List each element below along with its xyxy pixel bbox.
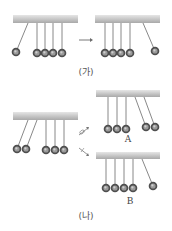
pendulum-ball	[142, 123, 151, 132]
pendulum-ball	[117, 49, 126, 58]
newtons-cradle-diagram: (가) (나) A B	[0, 0, 172, 231]
pendulum-ball	[12, 48, 21, 57]
pendulum-ball	[109, 49, 118, 58]
support-bar	[96, 90, 160, 97]
pendulum-ball	[126, 49, 135, 58]
pendulum-ball	[149, 182, 158, 191]
pendulum-ball	[49, 49, 58, 58]
support-bar	[13, 112, 78, 120]
pendulum-string	[26, 120, 37, 149]
pendulum-ball	[129, 184, 138, 193]
cradle-na-option-b	[96, 152, 160, 192]
pendulum-ball	[120, 184, 129, 193]
support-bar	[96, 152, 160, 159]
pendulum-ball	[111, 184, 120, 193]
pendulum-ball	[33, 49, 42, 58]
pendulum-string	[16, 23, 28, 52]
pendulum-ball	[151, 47, 160, 56]
pendulum-ball	[151, 123, 160, 132]
pendulum-ball	[60, 146, 69, 155]
pendulum-ball	[104, 125, 113, 134]
pendulum-ball	[102, 184, 111, 193]
right-arrow-icon	[79, 38, 93, 42]
pendulum-string	[142, 159, 153, 186]
pendulum-ball	[58, 49, 67, 58]
crossed-arrow-icon	[79, 127, 89, 135]
panel-label-na: (나)	[78, 211, 93, 221]
support-bar	[13, 15, 78, 23]
pendulum-ball	[51, 146, 60, 155]
pendulum-string	[17, 120, 28, 149]
pendulum-ball	[42, 146, 51, 155]
cradle-na-option-a	[96, 90, 160, 133]
pendulum-ball	[22, 145, 31, 154]
option-label-b: B	[127, 196, 134, 206]
pendulum-ball	[101, 49, 110, 58]
support-bar	[95, 15, 160, 23]
option-label-a: A	[124, 134, 132, 144]
pendulum-ball	[113, 125, 122, 134]
pendulum-string	[135, 97, 146, 127]
crossed-arrow-icon	[79, 148, 89, 156]
pendulum-string	[143, 23, 155, 51]
pendulum-ball	[13, 145, 22, 154]
cradle-panels	[12, 15, 160, 192]
pendulum-ball	[122, 125, 131, 134]
cradle-ga-after	[95, 15, 160, 57]
cradle-ga-before	[12, 15, 78, 57]
pendulum-ball	[41, 49, 50, 58]
pendulum-string	[144, 97, 155, 127]
cradle-na-before	[13, 112, 78, 154]
panel-label-ga: (가)	[78, 67, 93, 77]
